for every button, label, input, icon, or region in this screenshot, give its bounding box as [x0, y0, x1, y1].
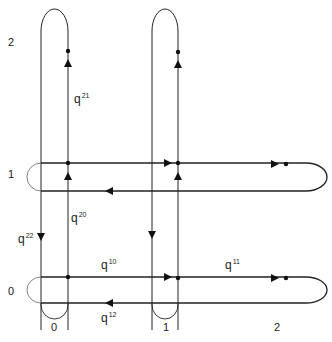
arrow-up-icon — [174, 172, 182, 180]
edge-label-q11: q11 — [225, 258, 240, 271]
state-dot — [176, 276, 180, 280]
edge-label-q22: q22 — [18, 232, 33, 245]
arrow-right-icon — [271, 160, 279, 168]
edge-label-q21: q21 — [74, 92, 89, 105]
y-label-2: 2 — [8, 37, 14, 48]
column-0-loop — [41, 9, 68, 330]
state-dot — [66, 49, 70, 53]
arrow-right-icon — [164, 159, 172, 167]
column-1-bottom-arc — [152, 303, 178, 319]
arrow-right-icon — [164, 273, 172, 281]
column-1-loop — [152, 9, 178, 330]
state-dot — [176, 50, 180, 54]
edge-label-q12: q12 — [101, 311, 116, 324]
x-label-0: 0 — [51, 322, 57, 333]
row-1-loop — [41, 163, 327, 191]
column-0-bottom-arc — [41, 303, 68, 319]
state-dot — [284, 276, 288, 280]
arrow-right-icon — [271, 274, 279, 282]
arrow-up-icon — [174, 60, 182, 68]
state-dot — [66, 275, 70, 279]
arrow-down-icon — [148, 231, 156, 239]
state-transition-diagram — [0, 0, 332, 342]
state-dot — [66, 161, 70, 165]
y-label-1: 1 — [8, 169, 14, 180]
x-label-1: 1 — [163, 322, 169, 333]
arrow-up-icon — [64, 172, 72, 180]
arrow-left-icon — [105, 187, 113, 195]
arrow-down-icon — [37, 233, 45, 241]
state-dot — [176, 161, 180, 165]
edge-label-q10: q10 — [101, 258, 116, 271]
y-label-0: 0 — [8, 286, 14, 297]
row-0-loop — [41, 277, 327, 303]
row-1-left-arc — [27, 163, 41, 191]
arrow-left-icon — [105, 299, 113, 307]
state-dots — [66, 49, 288, 280]
row-0-left-arc — [27, 277, 41, 303]
state-dot — [284, 162, 288, 166]
x-label-2: 2 — [274, 322, 280, 333]
arrow-up-icon — [64, 59, 72, 67]
edge-label-q20: q20 — [71, 211, 86, 224]
